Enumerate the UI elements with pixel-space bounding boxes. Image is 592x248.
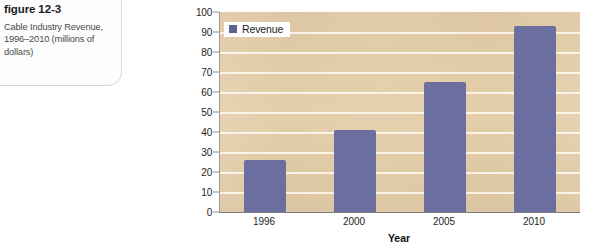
bar-chart: 1009080706050403020100 Revenue 199620002… — [186, 0, 592, 248]
plot-area — [219, 12, 580, 213]
x-tick-label: 1996 — [253, 216, 275, 227]
legend-swatch-icon — [229, 25, 237, 33]
bar — [334, 130, 376, 212]
y-tick-label: 70 — [186, 67, 212, 78]
figure-caption-panel: figure12-3 Cable Industry Revenue, 1996–… — [0, 0, 122, 86]
legend-label: Revenue — [242, 24, 283, 35]
x-tick-label: 2005 — [433, 216, 455, 227]
chart-legend: Revenue — [224, 22, 290, 37]
x-axis-title: Year — [219, 232, 579, 244]
y-tick-label: 90 — [186, 27, 212, 38]
figure-caption-text: Cable Industry Revenue, 1996–2010 (milli… — [4, 21, 111, 58]
y-tick-label: 60 — [186, 87, 212, 98]
y-tick-label: 0 — [186, 207, 212, 218]
y-tick-label: 80 — [186, 47, 212, 58]
x-tick-label: 2000 — [343, 216, 365, 227]
y-tick-label: 100 — [186, 7, 212, 18]
figure-heading-word: figure — [4, 3, 35, 15]
bars-layer — [220, 12, 580, 212]
x-tick-label: 2010 — [523, 216, 545, 227]
y-tick-label: 50 — [186, 107, 212, 118]
y-axis-labels: 1009080706050403020100 — [186, 0, 212, 248]
figure-heading-number: 12-3 — [38, 3, 61, 15]
bar — [244, 160, 286, 212]
y-tick-label: 10 — [186, 187, 212, 198]
x-axis-labels: 1996200020052010 — [219, 216, 579, 232]
y-tick-label: 40 — [186, 127, 212, 138]
y-tick-label: 30 — [186, 147, 212, 158]
bar — [514, 26, 556, 212]
bar — [424, 82, 466, 212]
y-tick-label: 20 — [186, 167, 212, 178]
figure-heading: figure12-3 — [4, 3, 111, 15]
